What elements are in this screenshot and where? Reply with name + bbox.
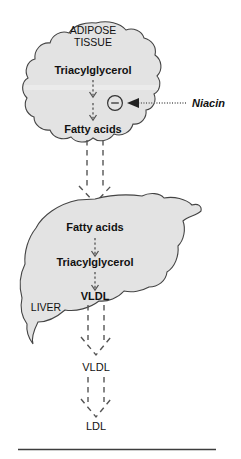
- adipose-triacylglycerol-label: Triacylglycerol: [54, 64, 131, 76]
- liver-fatty-acids-label: Fatty acids: [66, 221, 123, 233]
- liver-label: LIVER: [31, 301, 62, 313]
- plasma-ldl-label: LDL: [86, 420, 106, 432]
- plasma-vldl-label: VLDL: [82, 361, 110, 373]
- liver-triacylglycerol-label: Triacylglycerol: [56, 256, 133, 268]
- metabolic-pathway-diagram: ADIPOSE TISSUE Triacylglycerol Fatty aci…: [0, 0, 241, 459]
- vldl-to-ldl-arrowhead: [81, 399, 111, 417]
- figure-container: ADIPOSE TISSUE Triacylglycerol Fatty aci…: [0, 0, 241, 459]
- adipose-highlight-band: [24, 85, 158, 90]
- adipose-tissue-label-line2: TISSUE: [74, 36, 112, 48]
- liver-shape: [20, 194, 201, 344]
- liver-vldl-label: VLDL: [81, 290, 110, 302]
- adipose-fatty-acids-label: Fatty acids: [64, 123, 121, 135]
- niacin-label: Niacin: [192, 97, 225, 109]
- adipose-tissue-label-line1: ADIPOSE: [70, 24, 117, 36]
- vldl-secretion-arrowhead: [81, 337, 111, 355]
